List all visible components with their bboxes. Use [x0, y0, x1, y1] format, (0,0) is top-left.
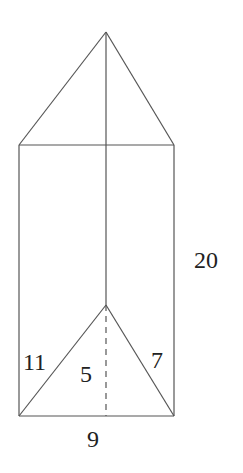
altitude-label: 5: [80, 361, 92, 387]
height-label: 20: [194, 247, 218, 273]
right-edge-label: 7: [151, 347, 163, 373]
top-right-edge: [106, 32, 174, 145]
bottom-right-edge: [106, 305, 174, 416]
top-left-edge: [19, 32, 106, 145]
left-edge-label: 11: [23, 349, 46, 375]
base-label: 9: [87, 426, 99, 452]
prism-diagram: 20 11 5 7 9: [0, 0, 243, 473]
